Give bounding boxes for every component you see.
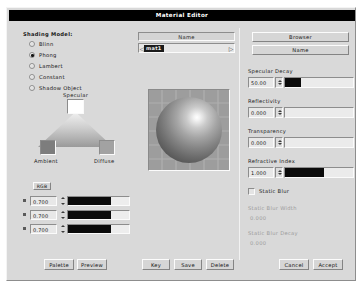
material-editor-window: Material Editor Shading Model: Blinn Pho… bbox=[6, 7, 356, 281]
window-title-bar: Material Editor bbox=[9, 10, 355, 21]
name-button[interactable]: Name bbox=[252, 45, 349, 55]
static-blur-width-label: Static Blur Width bbox=[248, 205, 297, 212]
reflectivity-spinner[interactable] bbox=[275, 107, 283, 118]
name-header-bar: Name bbox=[138, 32, 235, 41]
rgb-fill-b bbox=[68, 225, 111, 233]
channel-marker-b bbox=[23, 227, 26, 230]
rgb-value-g[interactable]: 0.700 bbox=[30, 210, 57, 220]
radio-label-constant: Constant bbox=[39, 74, 65, 80]
transparency-spinner[interactable] bbox=[275, 137, 283, 148]
static-blur-decay-label: Static Blur Decay bbox=[248, 230, 298, 237]
cancel-button[interactable]: Cancel bbox=[279, 259, 309, 270]
static-blur-width-value: 0.000 bbox=[250, 215, 266, 222]
refractive-index-value[interactable]: 1.000 bbox=[248, 167, 274, 178]
reflectivity-label: Reflectivity bbox=[248, 98, 281, 105]
reflectivity-value[interactable]: 0.000 bbox=[248, 107, 274, 118]
diffuse-label: Diffuse bbox=[94, 158, 114, 165]
transparency-label: Transparency bbox=[248, 128, 286, 135]
refractive-index-field: 1.000 bbox=[248, 167, 354, 178]
specular-decay-field: 50.00 bbox=[248, 77, 354, 88]
diffuse-color-swatch[interactable] bbox=[99, 140, 115, 155]
specular-decay-track[interactable] bbox=[284, 77, 354, 88]
radio-label-phong: Phong bbox=[39, 52, 57, 58]
rgb-spinner-r[interactable] bbox=[58, 196, 66, 206]
page-title: Material Editor bbox=[156, 12, 208, 18]
specular-color-swatch[interactable] bbox=[67, 99, 84, 114]
transparency-track[interactable] bbox=[284, 137, 354, 148]
refractive-index-spinner[interactable] bbox=[275, 167, 283, 178]
rgb-track-b[interactable] bbox=[67, 224, 130, 234]
next-material-arrow-icon[interactable]: ▷ bbox=[229, 45, 234, 53]
delete-button[interactable]: Delete bbox=[206, 259, 234, 270]
radio-phong[interactable] bbox=[29, 52, 35, 58]
specular-decay-value[interactable]: 50.00 bbox=[248, 77, 274, 88]
static-blur-label: Static Blur bbox=[259, 188, 289, 195]
accept-button[interactable]: Accept bbox=[313, 259, 343, 270]
rgb-track-r[interactable] bbox=[67, 196, 130, 206]
preview-button[interactable]: Preview bbox=[77, 259, 107, 270]
rgb-fill-r bbox=[68, 197, 111, 205]
transparency-value[interactable]: 0.000 bbox=[248, 137, 274, 148]
radio-lambert[interactable] bbox=[29, 63, 35, 69]
palette-button[interactable]: Palette bbox=[44, 259, 74, 270]
channel-marker-r bbox=[23, 199, 26, 202]
rgb-mode-button[interactable]: RGB bbox=[33, 182, 51, 190]
refractive-index-fill bbox=[285, 168, 324, 177]
channel-marker-g bbox=[23, 213, 26, 216]
reflectivity-track[interactable] bbox=[284, 107, 354, 118]
shading-model-label: Shading Model: bbox=[23, 31, 73, 38]
name-header-label: Name bbox=[139, 33, 234, 42]
save-button[interactable]: Save bbox=[174, 259, 202, 270]
refractive-index-track[interactable] bbox=[284, 167, 354, 178]
radio-label-blinn: Blinn bbox=[39, 41, 54, 47]
ambient-label: Ambient bbox=[34, 158, 58, 165]
static-blur-decay-value: 0.000 bbox=[250, 240, 266, 247]
material-name-value[interactable]: mat1 bbox=[144, 45, 164, 52]
specular-decay-spinner[interactable] bbox=[275, 77, 283, 88]
browser-button[interactable]: Browser bbox=[252, 32, 349, 42]
radio-label-lambert: Lambert bbox=[39, 63, 63, 69]
material-name-field[interactable]: ◁ mat1 ▷ bbox=[138, 43, 235, 53]
specular-label: Specular bbox=[63, 92, 88, 99]
radio-constant[interactable] bbox=[29, 74, 35, 80]
transparency-field: 0.000 bbox=[248, 137, 354, 148]
radio-blinn[interactable] bbox=[29, 41, 35, 47]
color-component-triangle: Specular Ambient Diffuse bbox=[23, 91, 131, 165]
key-button[interactable]: Key bbox=[142, 259, 170, 270]
specular-decay-label: Specular Decay bbox=[248, 68, 293, 75]
panel-divider bbox=[239, 28, 240, 260]
refractive-index-label: Refractive Index bbox=[248, 158, 295, 165]
ambient-color-swatch[interactable] bbox=[40, 140, 56, 155]
reflectivity-field: 0.000 bbox=[248, 107, 354, 118]
preview-sphere bbox=[156, 97, 222, 163]
specular-decay-fill bbox=[285, 78, 301, 87]
material-preview[interactable] bbox=[148, 89, 230, 171]
rgb-spinner-g[interactable] bbox=[58, 210, 66, 220]
rgb-spinner-b[interactable] bbox=[58, 224, 66, 234]
rgb-track-g[interactable] bbox=[67, 210, 130, 220]
rgb-value-b[interactable]: 0.700 bbox=[30, 224, 57, 234]
static-blur-checkbox[interactable] bbox=[248, 188, 255, 195]
rgb-fill-g bbox=[68, 211, 111, 219]
rgb-value-r[interactable]: 0.700 bbox=[30, 196, 57, 206]
